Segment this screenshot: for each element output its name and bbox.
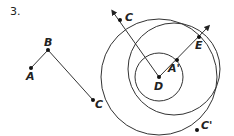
label-c-left: C (95, 98, 103, 111)
label-d: D (154, 80, 163, 93)
label-a-prime: A' (168, 62, 180, 75)
segment-abc (31, 50, 93, 100)
construction-diagram (0, 0, 234, 136)
label-e: E (195, 39, 203, 52)
label-c-top: C (125, 11, 133, 24)
label-a: A (26, 70, 35, 83)
label-c-prime: C' (201, 119, 212, 132)
label-b: B (44, 36, 52, 49)
ray-de (159, 27, 208, 77)
